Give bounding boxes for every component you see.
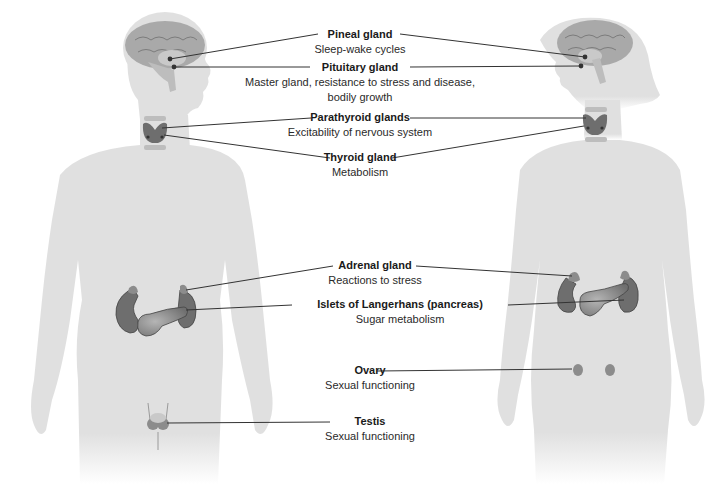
pituitary-title: Pituitary gland bbox=[220, 60, 500, 75]
testis-title: Testis bbox=[310, 414, 430, 429]
label-parathyroid: Parathyroid glands Excitability of nervo… bbox=[270, 110, 450, 140]
ovary-function: Sexual functioning bbox=[310, 378, 430, 393]
islets-function: Sugar metabolism bbox=[280, 312, 520, 327]
ovary-title: Ovary bbox=[310, 363, 430, 378]
testis-function: Sexual functioning bbox=[310, 429, 430, 444]
female-ovary-right-icon bbox=[605, 364, 615, 376]
label-ovary: Ovary Sexual functioning bbox=[310, 363, 430, 393]
parathyroid-title: Parathyroid glands bbox=[270, 110, 450, 125]
adrenal-function: Reactions to stress bbox=[305, 273, 445, 288]
pituitary-function-line2: bodily growth bbox=[220, 90, 500, 105]
parathyroid-function: Excitability of nervous system bbox=[270, 125, 450, 140]
female-ovary-left-icon bbox=[573, 364, 583, 376]
label-thyroid: Thyroid gland Metabolism bbox=[300, 150, 420, 180]
islets-title: Islets of Langerhans (pancreas) bbox=[280, 297, 520, 312]
pineal-function: Sleep-wake cycles bbox=[300, 42, 420, 57]
label-islets: Islets of Langerhans (pancreas) Sugar me… bbox=[280, 297, 520, 327]
pineal-title: Pineal gland bbox=[300, 27, 420, 42]
label-pituitary: Pituitary gland Master gland, resistance… bbox=[220, 60, 500, 105]
thyroid-title: Thyroid gland bbox=[300, 150, 420, 165]
label-pineal: Pineal gland Sleep-wake cycles bbox=[300, 27, 420, 57]
pituitary-function: Master gland, resistance to stress and d… bbox=[220, 75, 500, 90]
label-adrenal: Adrenal gland Reactions to stress bbox=[305, 258, 445, 288]
female-silhouette bbox=[497, 18, 704, 484]
thyroid-function: Metabolism bbox=[300, 165, 420, 180]
label-testis: Testis Sexual functioning bbox=[310, 414, 430, 444]
adrenal-title: Adrenal gland bbox=[305, 258, 445, 273]
